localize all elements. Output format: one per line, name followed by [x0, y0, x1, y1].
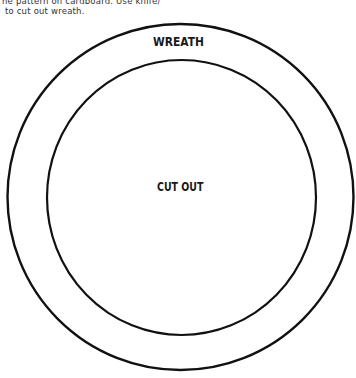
wreath-label: WREATH — [153, 34, 204, 49]
inner-circle — [47, 60, 316, 335]
cut-out-label: CUT OUT — [157, 180, 203, 194]
outer-circle — [8, 24, 354, 370]
